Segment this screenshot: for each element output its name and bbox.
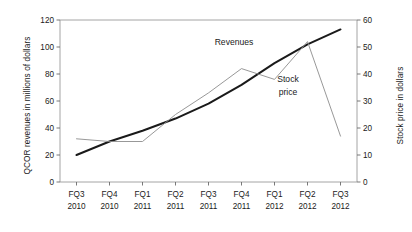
y-tick-label: 60 [45,97,55,106]
y-tick-label: 80 [45,70,55,79]
x-tick-label-quarter: FQ2 [168,190,184,199]
annotation-label: Stock [277,74,299,84]
y2-tick-label: 30 [363,97,373,106]
x-tick-label-quarter: FQ2 [300,190,316,199]
y-axis-left-ticks: 020406080100120 [40,16,60,187]
y2-tick-label: 40 [363,70,373,79]
annotation-label: price [279,87,298,97]
x-tick-label-quarter: FQ3 [69,190,85,199]
chart-figure: QCOR revenues in millions of dollars Sto… [0,0,412,232]
y-tick-label: 100 [40,43,54,52]
x-tick-label-year: 2012 [265,202,284,211]
axis-frame [60,20,357,182]
y2-tick-label: 50 [363,43,373,52]
x-tick-label-year: 2011 [167,202,185,211]
annotation-label: Revenues [215,37,254,47]
y-axis-right-ticks: 0102030405060 [357,16,373,187]
x-tick-label-year: 2012 [331,202,350,211]
x-tick-label-year: 2012 [298,202,317,211]
y-tick-label: 20 [45,151,55,160]
y-tick-label: 40 [45,124,55,133]
y2-tick-label: 60 [363,16,373,25]
y2-tick-label: 20 [363,124,373,133]
y2-tick-label: 0 [363,178,368,187]
x-tick-label-year: 2011 [200,202,218,211]
x-tick-label-quarter: FQ3 [201,190,217,199]
y-tick-label: 120 [40,16,54,25]
x-tick-label-year: 2011 [134,202,152,211]
x-tick-label-quarter: FQ1 [135,190,151,199]
x-tick-label-quarter: FQ4 [102,190,118,199]
y2-tick-label: 10 [363,151,373,160]
x-axis-ticks: FQ32010FQ42010FQ12011FQ22011FQ32011FQ420… [67,182,350,211]
data-series-layer [77,29,341,155]
series-line-stock-price [77,42,341,142]
plot-area: 020406080100120 0102030405060 FQ32010FQ4… [0,0,412,232]
annotation-layer: RevenuesStockprice [215,37,300,97]
x-tick-label-year: 2010 [67,202,86,211]
x-tick-label-quarter: FQ1 [267,190,283,199]
x-tick-label-year: 2010 [100,202,119,211]
x-tick-label-quarter: FQ3 [333,190,349,199]
series-line-revenues [77,29,341,155]
x-tick-label-year: 2011 [233,202,251,211]
x-tick-label-quarter: FQ4 [234,190,250,199]
y-tick-label: 0 [49,178,54,187]
